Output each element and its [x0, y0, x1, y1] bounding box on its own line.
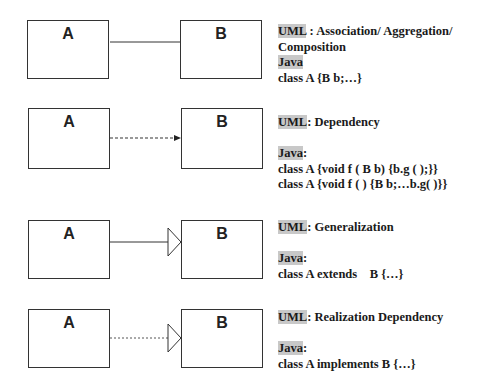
generalization-description: UML: Generalization Java: class A extend… [278, 220, 478, 282]
java-tag: Java [278, 55, 303, 69]
java-code-line: class A extends B {…} [278, 267, 478, 283]
uml-tag: UML [278, 220, 307, 234]
class-b-label: B [182, 113, 262, 131]
dependency-description: UML: Dependency Java: class A {void f ( … [278, 115, 478, 193]
class-b-box-generalization: B [181, 220, 263, 279]
class-b-box-realization: B [181, 309, 263, 368]
java-tag: Java [278, 341, 303, 355]
java-suffix: : [303, 341, 307, 355]
realization-description: UML: Realization Dependency Java: class … [278, 310, 478, 372]
java-suffix: : [303, 251, 307, 265]
class-a-label: A [29, 314, 109, 332]
uml-tag: UML [278, 310, 307, 324]
class-a-label: A [29, 225, 109, 243]
class-a-box-generalization: A [28, 220, 110, 279]
java-tag: Java [278, 146, 303, 160]
java-code-line: class A {void f ( ) {B b;…b.g( )}} [278, 177, 478, 193]
uml-relationship-text: : Association/ Aggregation/ [306, 24, 452, 38]
class-b-label: B [182, 314, 262, 332]
class-b-box-association: B [180, 20, 262, 79]
uml-relationship-text: : Realization Dependency [307, 310, 443, 324]
java-tag: Java [278, 251, 303, 265]
uml-relationship-text: : Generalization [307, 220, 393, 234]
class-a-box-dependency: A [28, 108, 110, 169]
class-b-label: B [181, 25, 261, 43]
class-a-box-association: A [27, 20, 109, 79]
uml-diagrams: A B A B A B A B [0, 0, 270, 389]
dependency-arrowhead-icon [174, 135, 181, 141]
java-code-line: class A implements B {…} [278, 357, 478, 373]
uml-relationship-text-cont: Composition [278, 40, 478, 56]
uml-tag: UML [278, 24, 306, 38]
class-a-label: A [28, 25, 108, 43]
java-suffix: : [303, 146, 307, 160]
class-a-label: A [29, 113, 109, 131]
class-b-label: B [182, 225, 262, 243]
java-code-line: class A {void f ( B b) {b.g ( );}} [278, 162, 478, 178]
uml-tag: UML [278, 115, 307, 129]
uml-relationship-text: : Dependency [307, 115, 380, 129]
class-b-box-dependency: B [181, 108, 263, 169]
java-code-line: class A {B b;…} [278, 71, 478, 87]
association-description: UML : Association/ Aggregation/ Composit… [278, 24, 478, 86]
generalization-hollow-triangle-icon [168, 228, 181, 256]
class-a-box-realization: A [28, 309, 110, 368]
realization-hollow-triangle-icon [168, 324, 181, 352]
